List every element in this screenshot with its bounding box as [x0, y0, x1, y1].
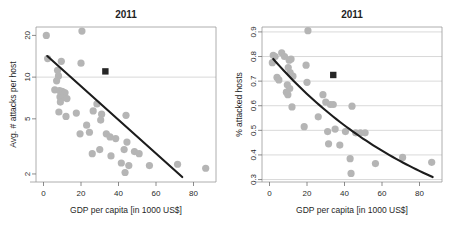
x-axis-title: GDP per capita [in 1000 US$]	[70, 205, 182, 215]
data-point	[90, 107, 97, 114]
data-point	[324, 128, 331, 135]
y-tick-label: 2	[24, 171, 33, 176]
x-tick-label: 20	[303, 189, 312, 198]
data-point	[348, 103, 355, 110]
data-point	[319, 91, 326, 98]
x-tick-label: 40	[340, 189, 349, 198]
x-axis-title: GDP per capita [in 1000 US$]	[296, 205, 408, 215]
scatter-plot-left: 0204060802510202011GDP per capita [in 10…	[0, 0, 226, 225]
data-point	[136, 150, 143, 157]
data-point	[288, 103, 295, 110]
x-tick-label: 40	[114, 189, 123, 198]
data-point	[347, 155, 354, 162]
data-point	[372, 160, 379, 167]
scatter-points	[43, 27, 210, 176]
data-point	[53, 77, 60, 84]
y-axis-title: % attacked hosts	[234, 72, 244, 137]
x-tick-label: 80	[415, 189, 424, 198]
data-point	[55, 108, 62, 115]
data-point	[121, 169, 128, 176]
data-point	[83, 122, 90, 129]
y-tick-label: 0.4	[250, 149, 259, 161]
data-point	[275, 76, 282, 83]
data-point	[97, 116, 104, 123]
data-point	[73, 109, 80, 116]
plot-title: 2011	[115, 9, 137, 20]
data-point	[112, 135, 119, 142]
data-point	[362, 129, 369, 136]
data-point	[330, 101, 337, 108]
data-point	[63, 95, 70, 102]
highlight-marker	[330, 72, 336, 78]
y-tick-label: 0.8	[250, 50, 259, 62]
x-tick-label: 0	[41, 189, 46, 198]
x-tick-label: 60	[152, 189, 161, 198]
x-tick-label: 60	[378, 189, 387, 198]
data-point	[287, 55, 294, 62]
data-point	[121, 146, 128, 153]
data-point	[347, 170, 354, 177]
y-tick-label: 0.3	[250, 173, 259, 185]
data-point	[58, 58, 65, 65]
data-point	[123, 138, 130, 145]
data-point	[86, 129, 93, 136]
data-point	[146, 162, 153, 169]
y-tick-label: 0.9	[250, 26, 259, 38]
scatter-plot-right: 0204060800.30.40.50.60.70.80.92011GDP pe…	[226, 0, 452, 225]
data-point	[96, 146, 103, 153]
data-point	[325, 140, 332, 147]
data-point	[428, 159, 435, 166]
data-point	[62, 113, 69, 120]
y-tick-label: 0.7	[250, 75, 259, 87]
figure-container: 0204060802510202011GDP per capita [in 10…	[0, 0, 452, 225]
chart-panel-left: 0204060802510202011GDP per capita [in 10…	[0, 0, 226, 225]
scatter-points	[269, 27, 436, 177]
data-point	[107, 152, 114, 159]
y-tick-label: 10	[24, 72, 33, 81]
data-point	[202, 165, 209, 172]
data-point	[122, 112, 129, 119]
data-point	[78, 27, 85, 34]
y-tick-label: 20	[24, 30, 33, 39]
data-point	[301, 123, 308, 130]
data-point	[303, 79, 310, 86]
data-point	[302, 62, 309, 69]
data-point	[89, 150, 96, 157]
x-tick-label: 0	[267, 189, 272, 198]
chart-panel-right: 0204060800.30.40.50.60.70.80.92011GDP pe…	[226, 0, 452, 225]
plot-title: 2011	[341, 9, 363, 20]
data-point	[43, 32, 50, 39]
y-axis-title: Avg. # attacks per host	[8, 61, 18, 148]
x-tick-label: 80	[189, 189, 198, 198]
data-point	[76, 130, 83, 137]
data-point	[174, 161, 181, 168]
y-tick-label: 0.6	[250, 100, 259, 112]
data-point	[284, 91, 291, 98]
data-point	[332, 126, 339, 133]
data-point	[336, 141, 343, 148]
data-point	[125, 162, 132, 169]
x-tick-label: 20	[77, 189, 86, 198]
highlight-marker	[102, 68, 108, 74]
data-point	[77, 60, 84, 67]
data-point	[304, 27, 311, 34]
y-tick-label: 5	[24, 116, 33, 121]
data-point	[57, 99, 64, 106]
y-tick-label: 0.5	[250, 124, 259, 136]
data-point	[315, 113, 322, 120]
data-point	[118, 159, 125, 166]
